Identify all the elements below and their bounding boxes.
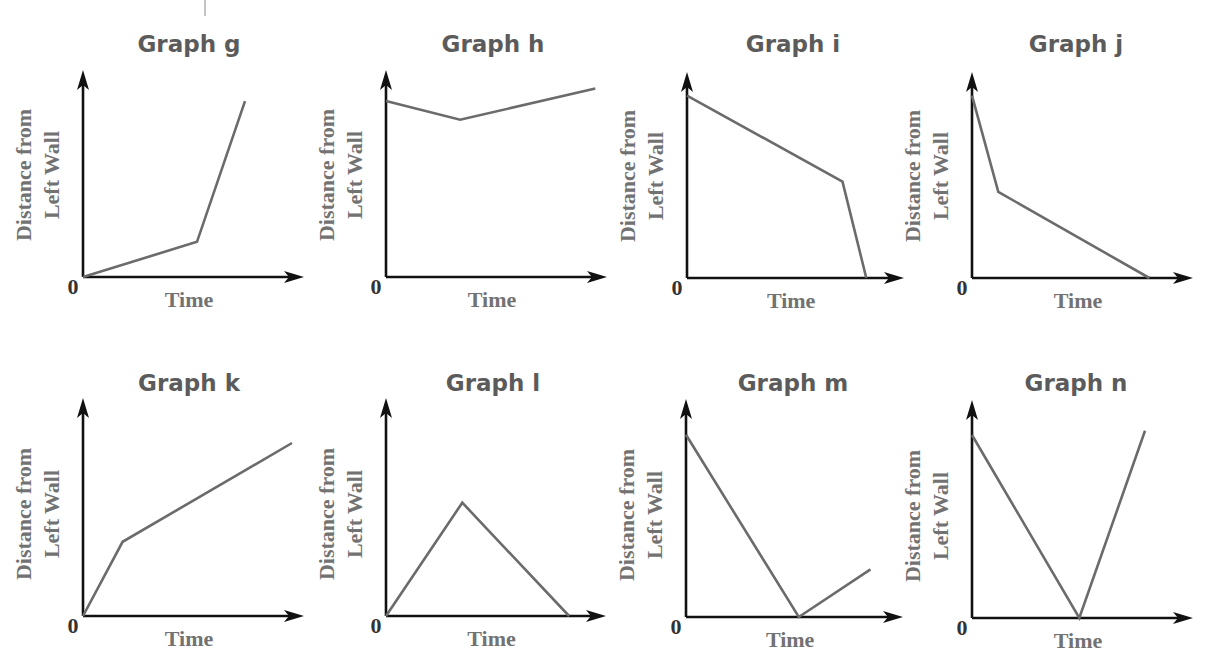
position-line (386, 503, 569, 616)
x-axis-label: Time (1054, 288, 1103, 313)
graph-title: Graph j (1029, 31, 1123, 57)
x-axis-label: Time (1054, 628, 1103, 653)
origin-label: 0 (68, 274, 79, 299)
graph-title: Graph k (138, 370, 241, 396)
position-line (83, 443, 292, 616)
y-axis-label-line: Distance from (900, 450, 925, 582)
graph-m: Graph m0TimeDistance fromLeft Wall (614, 370, 903, 652)
graph-title: Graph m (738, 370, 849, 396)
y-axis-label-line: Distance from (900, 110, 925, 242)
graph-title: Graph g (137, 31, 240, 57)
graph-n: Graph n0TimeDistance fromLeft Wall (900, 370, 1193, 653)
y-axis-label-line: Distance from (11, 448, 36, 580)
graph-h: Graph h0TimeDistance fromLeft Wall (314, 31, 607, 312)
y-axis-label-line: Left Wall (39, 131, 64, 219)
y-axis-label-line: Left Wall (642, 471, 667, 559)
y-axis-label-line: Left Wall (39, 470, 64, 558)
position-line (386, 89, 595, 120)
y-axis-label-line: Distance from (11, 109, 36, 241)
origin-label: 0 (68, 613, 79, 638)
graph-title: Graph i (746, 31, 840, 57)
graph-i: Graph i0TimeDistance fromLeft Wall (615, 31, 904, 313)
graph-g: Graph g0TimeDistance fromLeft Wall (11, 31, 304, 312)
origin-label: 0 (671, 614, 682, 639)
y-axis-label-line: Left Wall (342, 131, 367, 219)
y-axis-label-line: Left Wall (928, 132, 953, 220)
y-axis-label-line: Distance from (314, 448, 339, 580)
origin-label: 0 (957, 615, 968, 640)
graph-title: Graph l (446, 370, 540, 396)
graph-k: Graph k0TimeDistance fromLeft Wall (11, 370, 304, 651)
y-axis-label-line: Distance from (614, 449, 639, 581)
graph-l: Graph l0TimeDistance fromLeft Wall (314, 370, 606, 651)
x-axis-label: Time (467, 626, 516, 651)
position-line (83, 101, 245, 277)
y-axis-label-line: Left Wall (928, 472, 953, 560)
origin-label: 0 (672, 275, 683, 300)
x-axis-label: Time (468, 287, 517, 312)
x-axis-label: Time (165, 626, 214, 651)
graph-title: Graph h (442, 31, 545, 57)
distance-time-graphs-figure: Graph g0TimeDistance fromLeft WallGraph … (0, 0, 1206, 655)
graph-title: Graph n (1025, 370, 1128, 396)
x-axis-label: Time (767, 288, 816, 313)
position-line (972, 96, 1149, 278)
y-axis-label-line: Distance from (314, 109, 339, 241)
x-axis-label: Time (766, 627, 815, 652)
origin-label: 0 (371, 274, 382, 299)
graph-j: Graph j0TimeDistance fromLeft Wall (900, 31, 1193, 313)
y-axis-label-line: Distance from (615, 110, 640, 242)
origin-label: 0 (371, 613, 382, 638)
y-axis-label-line: Left Wall (643, 132, 668, 220)
position-line (687, 96, 866, 278)
graph-panels: Graph g0TimeDistance fromLeft WallGraph … (11, 31, 1193, 653)
y-axis-label-line: Left Wall (342, 470, 367, 558)
position-line (686, 435, 871, 617)
x-axis-label: Time (165, 287, 214, 312)
position-line (972, 431, 1145, 618)
origin-label: 0 (957, 275, 968, 300)
